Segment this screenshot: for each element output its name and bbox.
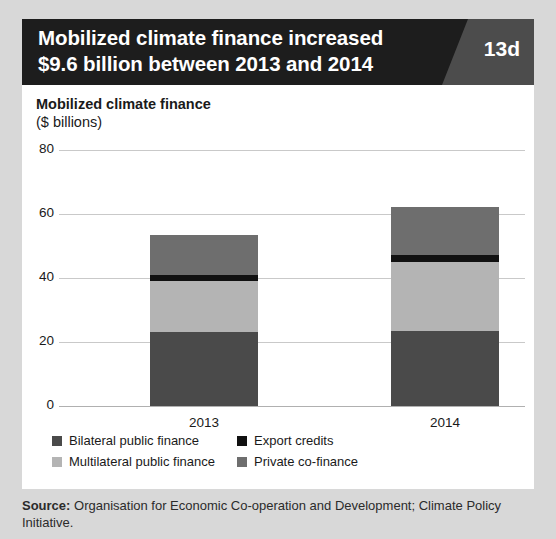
x-axis-label-2013: 2013 xyxy=(164,415,244,430)
figure-number-panel: 13d xyxy=(442,19,534,85)
bar-2013[interactable] xyxy=(150,85,258,406)
legend-item[interactable]: Export credits xyxy=(237,433,333,448)
chart-card: Mobilized climate finance ($ billions) 0… xyxy=(22,85,534,489)
legend-item-label: Export credits xyxy=(254,433,333,448)
bar-segment-multilateral-public-finance[interactable] xyxy=(391,262,499,331)
bar-segment-export-credits[interactable] xyxy=(150,275,258,281)
y-axis-tick-label: 40 xyxy=(24,269,54,284)
figure-title: Mobilized climate finance increased $9.6… xyxy=(38,25,383,77)
gridline xyxy=(59,406,525,407)
y-axis-tick-label: 60 xyxy=(24,205,54,220)
legend-item-label: Private co-finance xyxy=(254,454,358,469)
bar-segment-export-credits[interactable] xyxy=(391,255,499,262)
legend-swatch-icon xyxy=(52,457,62,467)
legend-item[interactable]: Bilateral public finance xyxy=(52,433,199,448)
figure-panel: Mobilized climate finance increased $9.6… xyxy=(0,0,556,539)
legend-item[interactable]: Private co-finance xyxy=(237,454,358,469)
bar-segment-bilateral-public-finance[interactable] xyxy=(391,331,499,406)
x-axis-label-2014: 2014 xyxy=(405,415,485,430)
legend-swatch-icon xyxy=(52,436,62,446)
source-label: Source: xyxy=(22,498,70,513)
source-note: Source: Organisation for Economic Co-ope… xyxy=(22,497,542,531)
figure-number-badge: 13d xyxy=(484,37,520,61)
bar-segment-private-co-finance[interactable] xyxy=(391,207,499,255)
y-axis-tick-label: 80 xyxy=(24,141,54,156)
bar-segment-multilateral-public-finance[interactable] xyxy=(150,281,258,332)
y-axis-tick-label: 20 xyxy=(24,333,54,348)
plot-area: 02040608020132014 xyxy=(22,85,534,489)
figure-title-line-1: Mobilized climate finance increased xyxy=(38,25,383,51)
bar-2014[interactable] xyxy=(391,85,499,406)
figure-title-bar: Mobilized climate finance increased $9.6… xyxy=(22,19,534,85)
legend-swatch-icon xyxy=(237,457,247,467)
bar-segment-private-co-finance[interactable] xyxy=(150,235,258,275)
legend-item-label: Bilateral public finance xyxy=(69,433,199,448)
bar-segment-bilateral-public-finance[interactable] xyxy=(150,332,258,406)
figure-title-line-2: $9.6 billion between 2013 and 2014 xyxy=(38,51,383,77)
y-axis-tick-label: 0 xyxy=(24,397,54,412)
legend-item[interactable]: Multilateral public finance xyxy=(52,454,215,469)
legend-swatch-icon xyxy=(237,436,247,446)
source-text: Organisation for Economic Co-operation a… xyxy=(22,498,501,530)
legend-item-label: Multilateral public finance xyxy=(69,454,215,469)
